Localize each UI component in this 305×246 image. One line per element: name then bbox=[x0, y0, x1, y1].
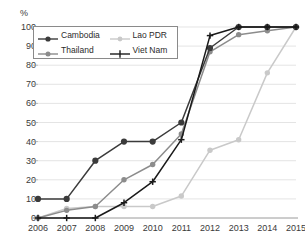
data-point-marker bbox=[236, 32, 241, 37]
legend-label-viet-nam: Viet Nam bbox=[133, 46, 168, 55]
data-point-marker bbox=[121, 139, 127, 145]
legend-entry-thailand: Thailand bbox=[34, 45, 106, 55]
data-point-marker bbox=[179, 193, 184, 198]
legend: Cambodia Lao PDR Thailand Viet Nam bbox=[33, 26, 178, 59]
legend-entry-cambodia: Cambodia bbox=[34, 30, 106, 40]
legend-entry-lao-pdr: Lao PDR bbox=[106, 30, 178, 40]
data-point-marker bbox=[64, 208, 69, 213]
legend-label-thailand: Thailand bbox=[61, 46, 94, 55]
data-point-marker bbox=[236, 137, 241, 142]
data-point-marker bbox=[121, 177, 126, 182]
legend-swatch-lao-pdr bbox=[109, 30, 131, 40]
legend-swatch-viet-nam bbox=[109, 45, 131, 55]
data-point-marker bbox=[92, 158, 98, 164]
legend-swatch-cambodia bbox=[37, 30, 59, 40]
legend-swatch-thailand bbox=[37, 45, 59, 55]
legend-label-lao-pdr: Lao PDR bbox=[133, 31, 168, 40]
data-point-marker bbox=[207, 147, 212, 152]
line-chart: % 0102030405060708090100 200620072008200… bbox=[0, 0, 305, 246]
data-point-marker bbox=[35, 196, 41, 202]
legend-entry-viet-nam: Viet Nam bbox=[106, 45, 178, 55]
legend-label-cambodia: Cambodia bbox=[61, 31, 100, 40]
data-point-marker bbox=[178, 119, 184, 125]
data-point-marker bbox=[64, 196, 70, 202]
data-point-marker bbox=[150, 204, 155, 209]
data-point-marker bbox=[150, 162, 155, 167]
data-point-marker bbox=[93, 204, 98, 209]
data-point-marker bbox=[150, 139, 156, 145]
data-point-marker bbox=[265, 70, 270, 75]
